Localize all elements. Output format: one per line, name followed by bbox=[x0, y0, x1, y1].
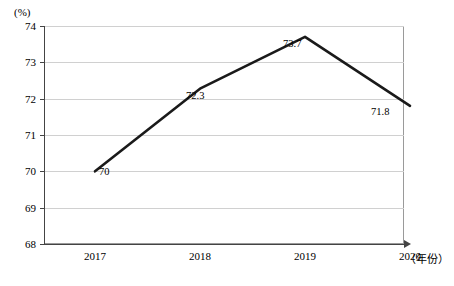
point-label-2017: 70 bbox=[99, 166, 110, 177]
point-label-2019: 73.7 bbox=[283, 38, 301, 49]
point-label-2020: 71.8 bbox=[371, 106, 389, 117]
ytick-label-71: 71 bbox=[10, 129, 36, 141]
x-axis-unit-label: （年份） bbox=[405, 250, 449, 266]
ytick-mark-69 bbox=[40, 208, 44, 209]
xtick-label-2018: 2018 bbox=[189, 250, 211, 262]
plot-area bbox=[44, 26, 404, 244]
ytick-label-74: 74 bbox=[10, 20, 36, 32]
point-label-2018: 72.3 bbox=[186, 90, 204, 101]
chart-container: (%) 74 73 72 71 70 69 68 2017 2018 2019 … bbox=[0, 0, 454, 286]
series-polyline bbox=[95, 37, 410, 171]
ytick-label-68: 68 bbox=[10, 238, 36, 250]
ytick-mark-70 bbox=[40, 171, 44, 172]
line-series bbox=[44, 26, 404, 244]
ytick-mark-68 bbox=[40, 244, 44, 245]
ytick-mark-73 bbox=[40, 62, 44, 63]
y-axis-line bbox=[44, 26, 45, 244]
ytick-label-73: 73 bbox=[10, 56, 36, 68]
xtick-label-2019: 2019 bbox=[294, 250, 316, 262]
ytick-label-70: 70 bbox=[10, 165, 36, 177]
x-axis-arrow-icon bbox=[404, 240, 411, 248]
ytick-mark-72 bbox=[40, 99, 44, 100]
ytick-mark-74 bbox=[40, 26, 44, 27]
xtick-label-2017: 2017 bbox=[84, 250, 106, 262]
ytick-label-72: 72 bbox=[10, 93, 36, 105]
ytick-label-69: 69 bbox=[10, 202, 36, 214]
ytick-mark-71 bbox=[40, 135, 44, 136]
y-axis-unit-label: (%) bbox=[14, 6, 31, 18]
x-axis-line bbox=[44, 244, 404, 245]
